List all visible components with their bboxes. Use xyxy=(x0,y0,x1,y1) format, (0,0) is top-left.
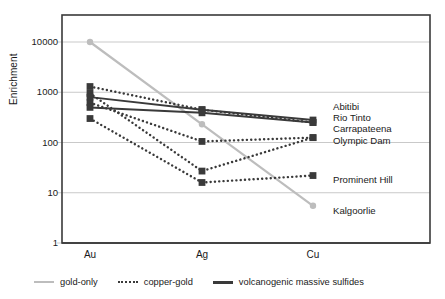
legend-swatch-bar xyxy=(118,281,138,283)
chart-legend: gold-onlycopper-goldvolcanogenic massive… xyxy=(0,272,445,292)
y-tick-label-10000: 10000 xyxy=(18,36,58,47)
series-label-rio-tinto: Rio Tinto xyxy=(333,112,371,124)
series-line-unlabeled-copper-gold xyxy=(90,93,313,171)
enrichment-chart: Enrichment 110100100010000 AuAgCu Abitib… xyxy=(0,0,445,299)
marker-abitibi xyxy=(87,94,94,101)
marker-prominent-hill xyxy=(87,115,94,122)
series-label-olympic-dam: Olympic Dam xyxy=(333,135,391,147)
marker-rio-tinto xyxy=(199,109,206,116)
y-tick-label-1000: 1000 xyxy=(18,86,58,97)
x-tick-label-au: Au xyxy=(65,249,115,260)
legend-swatch-solid-icon xyxy=(34,277,54,287)
legend-item-copper-gold[interactable]: copper-gold xyxy=(118,277,193,287)
legend-swatch-dotted-icon xyxy=(118,277,138,287)
legend-label: volcanogenic massive sulfides xyxy=(239,277,364,287)
x-tick-label-cu: Cu xyxy=(288,249,338,260)
series-label-kalgoorlie: Kalgoorlie xyxy=(333,205,376,217)
marker-kalgoorlie xyxy=(310,203,316,209)
marker-unlabeled-copper-gold xyxy=(310,134,317,141)
marker-carrapateena xyxy=(87,83,94,90)
marker-kalgoorlie xyxy=(87,39,93,45)
legend-swatch-bar xyxy=(213,281,233,284)
legend-swatch-bar xyxy=(34,281,54,283)
legend-item-gold-only[interactable]: gold-only xyxy=(34,277,98,287)
x-tick-label-ag: Ag xyxy=(177,249,227,260)
marker-kalgoorlie xyxy=(199,121,205,127)
legend-label: copper-gold xyxy=(144,277,193,287)
series-label-abitibi: Abitibi xyxy=(333,101,359,113)
marker-rio-tinto xyxy=(87,104,94,111)
y-tick-label-10: 10 xyxy=(18,187,58,198)
marker-unlabeled-copper-gold xyxy=(199,168,206,175)
marker-prominent-hill xyxy=(199,179,206,186)
series-label-prominent-hill: Prominent Hill xyxy=(333,174,393,186)
marker-olympic-dam xyxy=(199,138,206,145)
y-tick-label-1: 1 xyxy=(18,237,58,248)
y-tick-label-100: 100 xyxy=(18,137,58,148)
legend-swatch-solid-icon xyxy=(213,277,233,287)
series-label-carrapateena: Carrapateena xyxy=(333,123,392,135)
marker-rio-tinto xyxy=(310,119,317,126)
y-axis-title: Enrichment xyxy=(8,53,19,105)
marker-prominent-hill xyxy=(310,172,317,179)
legend-label: gold-only xyxy=(60,277,98,287)
legend-item-volcanogenic-massive-sulfides[interactable]: volcanogenic massive sulfides xyxy=(213,277,364,287)
